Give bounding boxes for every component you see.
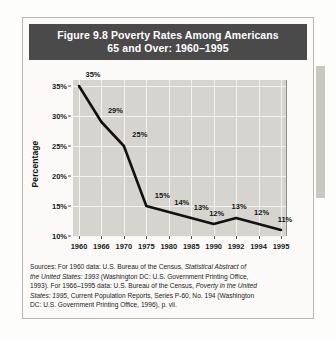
x-axis-tick-label: 1966 — [93, 242, 110, 251]
data-point-label: 15% — [155, 191, 170, 200]
y-axis-tick-label: 20% — [41, 172, 67, 181]
y-axis-tick-mark — [68, 236, 71, 237]
data-point-label: 25% — [132, 130, 147, 139]
y-axis-tick-label: 30% — [41, 112, 67, 121]
source-line-3: 1993). For 1966–1995 data: U.S. Bureau o… — [30, 281, 306, 291]
y-axis-title-label: Percentage — [30, 141, 40, 188]
x-axis-tick-mark — [191, 236, 192, 239]
figure-title-banner: Figure 9.8 Poverty Rates Among Americans… — [29, 24, 307, 60]
x-axis-tick-mark — [281, 236, 282, 239]
x-axis-tick-label: 1994 — [250, 242, 267, 251]
data-point-label: 13% — [194, 203, 209, 212]
data-point-label: 35% — [85, 70, 100, 79]
x-axis-ticks: 1960196619701975198019851990199219941995 — [73, 236, 287, 252]
x-axis-tick-label: 1975 — [138, 242, 155, 251]
source-line-5: DC: U.S. Government Printing Office, 199… — [30, 300, 306, 310]
y-axis-tick-mark — [68, 146, 71, 147]
x-axis-tick-mark — [124, 236, 125, 239]
x-axis-tick-mark — [236, 236, 237, 239]
y-axis-tick-mark — [68, 206, 71, 207]
source-text: DC: U.S. Government Printing Office, 199… — [30, 301, 177, 308]
y-axis-tick-mark — [68, 176, 71, 177]
y-axis-tick-label: 35% — [41, 82, 67, 91]
data-point-label: 14% — [174, 198, 189, 207]
source-line-2: the United States: 1993 (Washington DC: … — [30, 272, 306, 282]
y-axis-tick-label: 10% — [41, 232, 67, 241]
chart: Percentage 10%15%20%25%30%35% 35%29%25%1… — [29, 66, 307, 256]
x-axis-tick-mark — [214, 236, 215, 239]
x-axis-tick-label: 1980 — [160, 242, 177, 251]
x-axis-tick-mark — [169, 236, 170, 239]
x-axis-tick-label: 1995 — [273, 242, 290, 251]
source-line-4: States: 1995, Current Population Reports… — [30, 291, 306, 301]
source-text: Sources: For 1960 data: U.S. Bureau of t… — [30, 263, 185, 270]
x-axis-tick-mark — [146, 236, 147, 239]
figure-title-line-2: 65 and Over: 1960–1995 — [107, 42, 228, 55]
x-axis-tick-mark — [79, 236, 80, 239]
source-text: (Washington DC: U.S. Government Printing… — [99, 273, 249, 280]
source-text-italic: Statistical Abstract of — [185, 263, 246, 270]
data-point-label: 12% — [209, 209, 224, 218]
y-axis-tick-mark — [68, 86, 71, 87]
x-axis-tick-mark — [259, 236, 260, 239]
y-axis-tick-mark — [68, 116, 71, 117]
source-text: , Current Population Reports, Series P-6… — [67, 292, 254, 299]
x-axis-tick-label: 1992 — [228, 242, 245, 251]
source-text-italic: the United States: 1993 — [30, 273, 99, 280]
source-text-italic: States: 1995 — [30, 292, 67, 299]
source-line-1: Sources: For 1960 data: U.S. Bureau of t… — [30, 262, 306, 272]
figure-sources: Sources: For 1960 data: U.S. Bureau of t… — [30, 262, 306, 310]
y-axis-tick-label: 25% — [41, 142, 67, 151]
y-axis-tick-label: 15% — [41, 202, 67, 211]
data-point-label: 29% — [108, 106, 123, 115]
data-point-label: 12% — [254, 208, 269, 217]
x-axis-tick-label: 1990 — [205, 242, 222, 251]
x-axis-tick-label: 1985 — [183, 242, 200, 251]
figure-container: Figure 9.8 Poverty Rates Among Americans… — [0, 0, 336, 338]
data-point-label: 13% — [232, 202, 247, 211]
x-axis-tick-label: 1960 — [71, 242, 88, 251]
figure-title-line-1: Figure 9.8 Poverty Rates Among Americans — [57, 29, 278, 42]
source-text-italic: Poverty in the United — [196, 282, 257, 289]
data-point-label: 11% — [278, 215, 293, 224]
y-axis-title: Percentage — [28, 118, 42, 210]
y-axis-ticks: 10%15%20%25%30%35% — [43, 86, 71, 230]
source-text: 1993). For 1966–1995 data: U.S. Bureau o… — [30, 282, 196, 289]
x-axis-tick-label: 1970 — [116, 242, 133, 251]
x-axis-tick-mark — [101, 236, 102, 239]
page-edge-shading — [316, 66, 325, 198]
plot-area: 35%29%25%15%14%13%12%13%12%11% — [73, 80, 287, 236]
